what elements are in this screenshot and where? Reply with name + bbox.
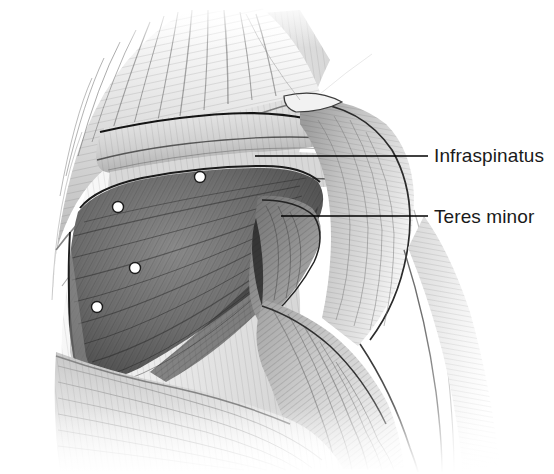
trigger-point-marker-3[interactable]	[130, 263, 141, 274]
anatomy-figure: Infraspinatus Teres minor	[0, 0, 554, 474]
label-infraspinatus: Infraspinatus	[434, 146, 544, 165]
trigger-point-marker-2[interactable]	[113, 202, 124, 213]
paper-fade-overlay	[0, 0, 554, 474]
trigger-point-marker-1[interactable]	[195, 172, 206, 183]
anatomy-illustration-canvas	[0, 0, 554, 474]
trigger-point-marker-4[interactable]	[92, 302, 103, 313]
label-teres-minor: Teres minor	[434, 207, 534, 226]
